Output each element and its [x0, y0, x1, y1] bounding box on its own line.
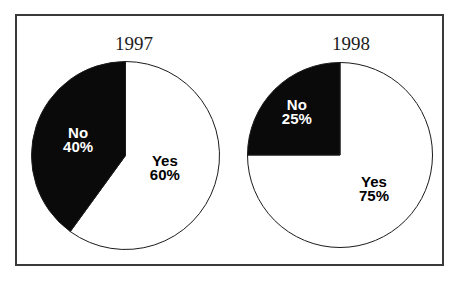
pie-title-1997: 1997	[115, 33, 153, 55]
pie-1997	[31, 62, 219, 250]
slice-percent: 25%	[282, 112, 312, 126]
slice-label-1998-no: No 25%	[282, 98, 312, 126]
slice-percent: 60%	[150, 168, 180, 182]
slice-label-1998-yes: Yes 75%	[359, 175, 389, 203]
pie-1998	[248, 63, 433, 248]
figure: 1997 1998 Yes 60% No 40% Yes 75% No 25%	[0, 0, 461, 281]
slice-percent: 75%	[359, 189, 389, 203]
slice-label-1997-no: No 40%	[63, 126, 93, 154]
pie-title-1998: 1998	[332, 33, 370, 55]
slice-label-1997-yes: Yes 60%	[150, 154, 180, 182]
slice-percent: 40%	[63, 140, 93, 154]
